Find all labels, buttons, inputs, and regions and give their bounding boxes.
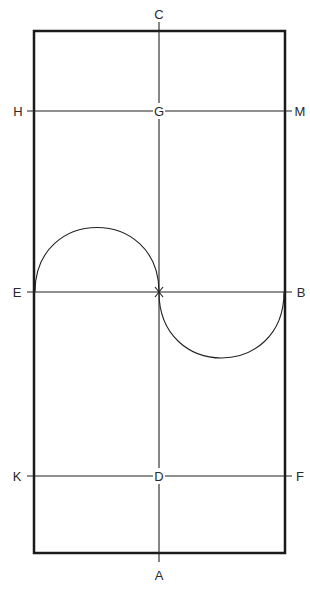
- label-g: G: [154, 104, 164, 119]
- label-f: F: [296, 469, 304, 484]
- label-c: C: [154, 7, 163, 22]
- label-a: A: [155, 568, 164, 583]
- label-k: K: [13, 469, 22, 484]
- label-h: H: [13, 104, 22, 119]
- label-b: B: [297, 285, 306, 300]
- label-e: E: [13, 285, 22, 300]
- upper-arc-e-x: [35, 228, 159, 293]
- lower-arc-x-b: [159, 292, 284, 358]
- label-m: M: [295, 104, 306, 119]
- label-d: D: [154, 469, 163, 484]
- geometry-diagram: C A H G M E B K D F: [0, 0, 310, 592]
